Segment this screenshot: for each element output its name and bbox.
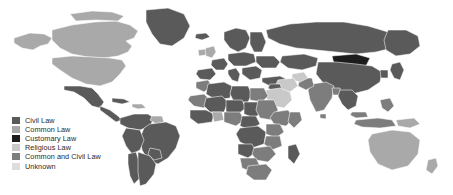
legend-swatch-customary xyxy=(12,135,20,142)
region-ghana xyxy=(212,112,224,122)
legend-label-customary: Customary Law xyxy=(25,134,76,143)
legend-label-common-and-civil: Common and Civil Law xyxy=(25,152,101,161)
region-sri-lanka xyxy=(320,114,326,119)
legend-label-unknown: Unknown xyxy=(25,162,56,171)
legend-swatch-religious xyxy=(12,144,20,151)
region-indonesia xyxy=(354,118,396,128)
region-ireland xyxy=(198,49,206,56)
legend-swatch-common-and-civil xyxy=(12,153,20,160)
legend-item-common[interactable]: Common Law xyxy=(12,125,101,134)
legend-swatch-civil xyxy=(12,117,20,124)
legend-item-religious[interactable]: Religious Law xyxy=(12,143,101,152)
region-germany-poland xyxy=(228,52,256,66)
region-mali xyxy=(204,96,228,112)
world-map-figure: Civil Law Common Law Customary Law Relig… xyxy=(0,0,453,195)
legend-item-customary[interactable]: Customary Law xyxy=(12,134,101,143)
region-libya xyxy=(230,86,252,102)
legend-item-civil[interactable]: Civil Law xyxy=(12,116,101,125)
region-korea xyxy=(380,70,388,78)
legend-label-religious: Religious Law xyxy=(25,143,71,152)
legend-swatch-common xyxy=(12,126,20,133)
legend-item-common-and-civil[interactable]: Common and Civil Law xyxy=(12,152,101,161)
legend-label-civil: Civil Law xyxy=(25,116,55,125)
legend-item-unknown[interactable]: Unknown xyxy=(12,161,101,170)
legend-swatch-unknown xyxy=(12,163,20,170)
legend-label-common: Common Law xyxy=(25,125,70,134)
legal-system-legend: Civil Law Common Law Customary Law Relig… xyxy=(12,116,101,171)
